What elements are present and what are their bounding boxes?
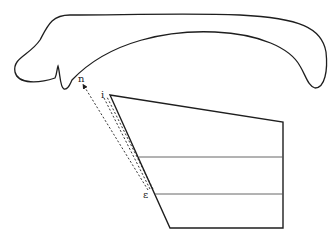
label-n: n <box>78 74 84 84</box>
label-epsilon: ε <box>143 190 148 200</box>
dashed-line-epsilon-to-i-a <box>104 98 150 189</box>
dashed-line-epsilon-to-n <box>84 86 148 190</box>
curved-outline <box>15 14 327 89</box>
diagram-canvas <box>0 0 335 242</box>
quadrilateral <box>110 95 283 228</box>
label-i: i <box>101 90 104 100</box>
